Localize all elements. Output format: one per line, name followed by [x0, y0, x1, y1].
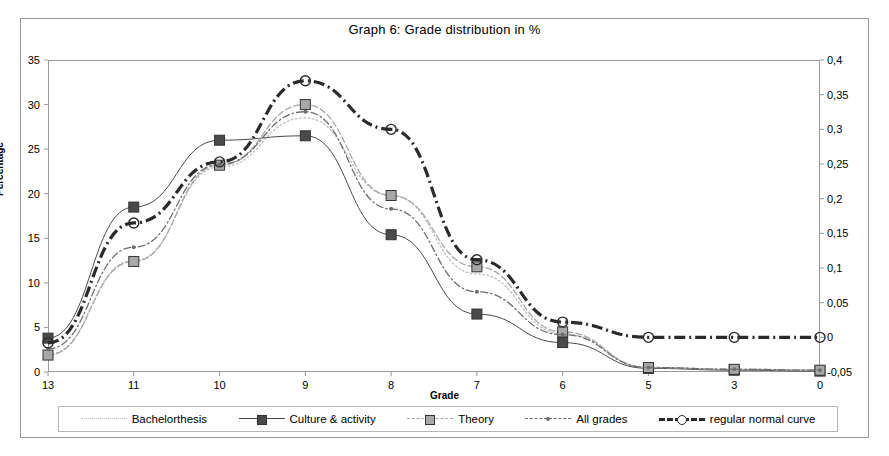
- secondary-y-axis-tick: 0,05: [827, 298, 867, 308]
- y-axis-tick: 0: [6, 367, 40, 377]
- x-axis-tick: 5: [628, 379, 668, 391]
- legend-label: All grades: [576, 413, 627, 425]
- y-axis-tick: 20: [6, 189, 40, 199]
- secondary-y-axis-tick: -0,05: [827, 367, 867, 377]
- secondary-y-axis-tick: 0,15: [827, 228, 867, 238]
- x-axis-tick: 8: [371, 379, 411, 391]
- x-axis-tick: 13: [28, 379, 68, 391]
- chart-legend: BachelorthesisCulture & activityTheoryAl…: [58, 406, 838, 432]
- y-axis-title: Percentage: [0, 142, 5, 196]
- secondary-y-axis-tick: 0: [827, 332, 867, 342]
- legend-marker-icon: [81, 413, 127, 425]
- secondary-y-axis-tick: 0,35: [827, 90, 867, 100]
- y-axis-tick: 30: [6, 100, 40, 110]
- x-axis-tick: 7: [457, 379, 497, 391]
- y-axis-tick: 5: [6, 322, 40, 332]
- x-axis-tick: 11: [114, 379, 154, 391]
- secondary-y-axis-tick: 0,25: [827, 159, 867, 169]
- secondary-y-axis-tick: 0,1: [827, 263, 867, 273]
- x-axis-tick: 3: [714, 379, 754, 391]
- legend-item-2[interactable]: Theory: [407, 413, 494, 425]
- y-axis-tick: 25: [6, 144, 40, 154]
- x-axis-tick: 6: [543, 379, 583, 391]
- secondary-y-axis-tick: 0,4: [827, 55, 867, 65]
- legend-label: Theory: [458, 413, 494, 425]
- x-axis-title: Grade: [0, 390, 889, 401]
- legend-marker-icon: [525, 413, 571, 425]
- legend-marker-icon: [659, 413, 705, 425]
- legend-item-4[interactable]: regular normal curve: [659, 413, 815, 425]
- y-axis-tick: 35: [6, 55, 40, 65]
- legend-item-1[interactable]: Culture & activity: [239, 413, 376, 425]
- legend-marker-icon: [407, 413, 453, 425]
- legend-label: Bachelorthesis: [132, 413, 207, 425]
- y-axis-tick: 15: [6, 233, 40, 243]
- x-axis-tick: 9: [285, 379, 325, 391]
- plot-area: [48, 60, 820, 372]
- legend-marker-icon: [239, 413, 285, 425]
- legend-item-3[interactable]: All grades: [525, 413, 627, 425]
- x-axis-tick: 10: [200, 379, 240, 391]
- y-axis-tick: 10: [6, 278, 40, 288]
- legend-label: regular normal curve: [710, 413, 815, 425]
- chart-screenshot: Graph 6: Grade distribution in % Percent…: [0, 0, 889, 456]
- legend-label: Culture & activity: [290, 413, 376, 425]
- secondary-y-axis-tick: 0,2: [827, 194, 867, 204]
- chart-title: Graph 6: Grade distribution in %: [20, 22, 869, 37]
- x-axis-tick: 0: [800, 379, 840, 391]
- legend-item-0[interactable]: Bachelorthesis: [81, 413, 207, 425]
- secondary-y-axis-tick: 0,3: [827, 124, 867, 134]
